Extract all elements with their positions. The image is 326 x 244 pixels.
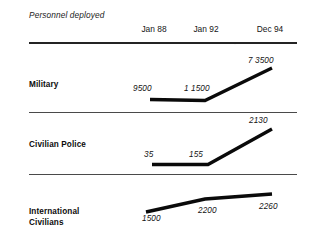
header-divider bbox=[29, 42, 297, 44]
value-civilian-police-dec-94: 2130 bbox=[249, 116, 268, 125]
value-international-civilians-jan-88: 1500 bbox=[142, 214, 161, 223]
value-military-jan-88: 9500 bbox=[133, 84, 152, 93]
value-military-jan-92: 1 1500 bbox=[184, 84, 210, 93]
row-divider-civilian-police bbox=[29, 174, 297, 175]
column-header-dec-94: Dec 94 bbox=[250, 24, 290, 34]
row-divider-military bbox=[29, 112, 297, 113]
page-title: Personnel deployed bbox=[29, 10, 105, 20]
sparkline-military bbox=[150, 68, 272, 101]
value-civilian-police-jan-92: 155 bbox=[189, 150, 203, 159]
value-international-civilians-dec-94: 2260 bbox=[259, 202, 278, 211]
column-header-jan-88: Jan 88 bbox=[134, 24, 174, 34]
column-header-jan-92: Jan 92 bbox=[186, 24, 226, 34]
value-military-dec-94: 7 3500 bbox=[248, 56, 274, 65]
sparkline-civilian-police bbox=[152, 129, 272, 165]
row-label-international-civilians: International Civilians bbox=[29, 207, 79, 228]
row-label-military: Military bbox=[29, 80, 58, 91]
value-international-civilians-jan-92: 2200 bbox=[198, 206, 217, 215]
row-label-civilian-police: Civilian Police bbox=[29, 140, 86, 151]
personnel-deployed-chart: Personnel deployed Jan 88 Jan 92 Dec 94 … bbox=[0, 0, 326, 244]
value-civilian-police-jan-88: 35 bbox=[144, 150, 153, 159]
